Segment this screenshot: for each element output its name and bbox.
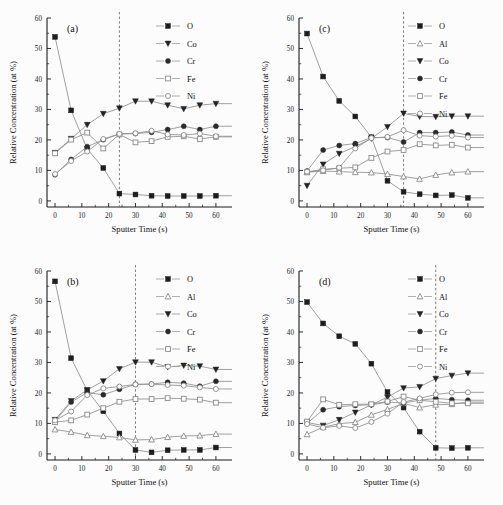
x-axis-title: Sputter Time (s) [364, 477, 420, 487]
x-tick-label: 0 [53, 212, 57, 220]
y-tick-label: 10 [35, 420, 43, 428]
legend-label-o: O [187, 22, 193, 31]
series-al [52, 427, 232, 443]
legend-label-co: Co [187, 40, 197, 49]
y-tick-label: 0 [290, 451, 294, 459]
legend-label-co: Co [187, 310, 197, 319]
series-ni [305, 390, 484, 431]
x-tick-label: 40 [159, 212, 167, 220]
legend-label-fe: Fe [187, 75, 196, 84]
series-ni [53, 382, 232, 423]
x-tick-label: 40 [411, 212, 419, 220]
panel-label: (b) [67, 276, 79, 288]
chart-panel-a: 01020304050600102030405060Sputter Time (… [0, 0, 251, 252]
series-al [304, 399, 484, 437]
y-tick-label: 30 [287, 359, 295, 367]
y-tick-label: 30 [35, 359, 43, 367]
y-tick-label: 50 [35, 45, 43, 53]
legend-label-ni: Ni [439, 363, 448, 372]
y-tick-label: 60 [35, 268, 43, 276]
y-tick-label: 50 [287, 45, 295, 53]
legend-label-cr: Cr [439, 75, 448, 84]
legend-label-ni: Ni [187, 363, 196, 372]
chart-panel-b: 01020304050600102030405060Sputter Time (… [0, 253, 251, 505]
xps-depth-profile-figure: 01020304050600102030405060Sputter Time (… [0, 0, 503, 505]
x-axis-title: Sputter Time (s) [112, 224, 168, 234]
x-tick-label: 60 [464, 212, 472, 220]
x-tick-label: 10 [78, 465, 86, 473]
y-tick-label: 20 [35, 137, 43, 145]
legend-label-o: O [439, 275, 445, 284]
y-tick-label: 20 [287, 137, 295, 145]
legend-label-fe: Fe [439, 92, 448, 101]
x-tick-label: 10 [78, 212, 86, 220]
x-tick-label: 50 [438, 212, 446, 220]
legend: OCoCrFeNi [156, 22, 197, 101]
y-axis-title: Relative Concentration (at %) [260, 61, 270, 164]
y-axis-title: Relative Concentration (at %) [8, 61, 18, 164]
legend-label-ni: Ni [187, 92, 196, 101]
y-tick-label: 0 [38, 451, 42, 459]
series-fe [53, 396, 232, 425]
plot-area-b: 01020304050600102030405060Sputter Time (… [0, 253, 251, 505]
x-tick-label: 10 [330, 212, 338, 220]
y-tick-label: 10 [35, 167, 43, 175]
y-tick-label: 40 [287, 329, 295, 337]
x-tick-label: 20 [105, 212, 113, 220]
legend-label-ni: Ni [439, 110, 448, 119]
chart-panel-c: 01020304050600102030405060Sputter Time (… [252, 0, 503, 252]
x-tick-label: 20 [357, 465, 365, 473]
series-fe [305, 142, 484, 175]
x-tick-label: 20 [357, 212, 365, 220]
x-tick-label: 30 [132, 465, 140, 473]
x-tick-label: 0 [53, 465, 57, 473]
x-axis-title: Sputter Time (s) [364, 224, 420, 234]
legend: OAlCoCrFeNi [408, 275, 449, 372]
y-tick-label: 60 [35, 15, 43, 23]
y-tick-label: 40 [35, 329, 43, 337]
y-tick-label: 30 [287, 106, 295, 114]
x-tick-label: 0 [305, 465, 309, 473]
series-co [52, 99, 232, 156]
y-tick-label: 20 [35, 390, 43, 398]
legend-label-al: Al [187, 293, 196, 302]
x-tick-label: 20 [105, 465, 113, 473]
x-tick-label: 50 [186, 212, 194, 220]
chart-panel-d: 01020304050600102030405060Sputter Time (… [252, 253, 503, 505]
legend-label-al: Al [439, 40, 448, 49]
plot-area-a: 01020304050600102030405060Sputter Time (… [0, 0, 251, 252]
x-tick-label: 50 [186, 465, 194, 473]
legend-label-cr: Cr [439, 328, 448, 337]
panel-label: (c) [319, 23, 330, 35]
series-cr [305, 396, 484, 426]
panel-label: (d) [319, 276, 331, 288]
x-tick-label: 30 [384, 465, 392, 473]
y-tick-label: 0 [38, 198, 42, 206]
y-tick-label: 0 [290, 198, 294, 206]
y-tick-label: 10 [287, 167, 295, 175]
x-tick-label: 40 [159, 465, 167, 473]
x-tick-label: 60 [212, 212, 220, 220]
y-tick-label: 50 [287, 298, 295, 306]
legend-label-cr: Cr [187, 57, 196, 66]
x-tick-label: 40 [411, 465, 419, 473]
y-tick-label: 20 [287, 390, 295, 398]
plot-area-c: 01020304050600102030405060Sputter Time (… [252, 0, 503, 252]
x-tick-label: 50 [438, 465, 446, 473]
y-axis-title: Relative Concentration (at %) [8, 314, 18, 417]
x-axis-title: Sputter Time (s) [112, 477, 168, 487]
plot-area-d: 01020304050600102030405060Sputter Time (… [252, 253, 503, 505]
y-tick-label: 10 [287, 420, 295, 428]
x-tick-label: 30 [384, 212, 392, 220]
x-tick-label: 0 [305, 212, 309, 220]
legend-label-co: Co [439, 57, 449, 66]
legend-label-al: Al [439, 293, 448, 302]
panel-label: (a) [67, 23, 78, 35]
y-tick-label: 40 [35, 76, 43, 84]
x-tick-label: 30 [132, 212, 140, 220]
y-axis-title: Relative Concentration (at %) [260, 314, 270, 417]
y-tick-label: 40 [287, 76, 295, 84]
legend: OAlCoCrFeNi [156, 275, 197, 372]
x-tick-label: 10 [330, 465, 338, 473]
legend-label-cr: Cr [187, 328, 196, 337]
